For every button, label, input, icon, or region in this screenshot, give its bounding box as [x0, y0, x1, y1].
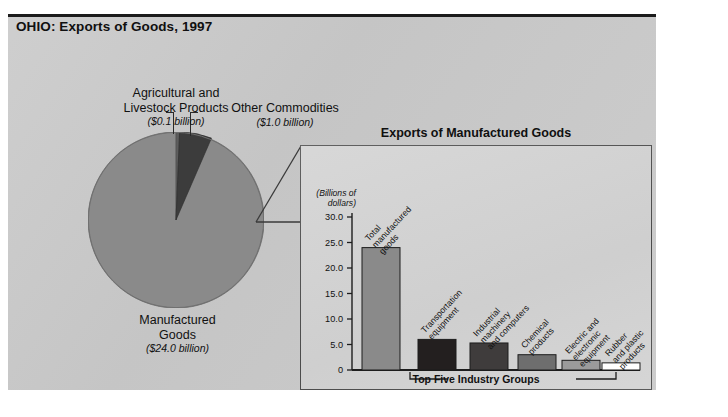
- bar-chart-svg: 05.010.015.020.025.030.0Totalmanufacture…: [300, 145, 652, 390]
- y-axis-tick-label: 10.0: [325, 314, 343, 324]
- bar-label-4: Chemicalproducts: [519, 317, 558, 357]
- figure-root: OHIO: Exports of Goods, 1997 Agricultura…: [0, 0, 728, 417]
- pie-label-manufactured-line1: Manufactured: [95, 313, 260, 328]
- y-axis-tick-label: 25.0: [325, 238, 343, 248]
- bar-2: [418, 339, 456, 370]
- callout-line-upper: [256, 146, 301, 222]
- pie-label-manufactured: Manufactured Goods ($24.0 billion): [95, 313, 260, 355]
- pie-label-manufactured-value: ($24.0 billion): [95, 342, 260, 354]
- pie-label-manufactured-line2: Goods: [95, 328, 260, 343]
- bar-1: [362, 248, 400, 370]
- y-axis-tick-label: 15.0: [325, 289, 343, 299]
- pie-chart-svg: [88, 132, 264, 308]
- bar-label-2: Transportationequipment: [419, 287, 471, 341]
- y-axis-tick-label: 30.0: [325, 212, 343, 222]
- inset-chart-title: Exports of Manufactured Goods: [300, 126, 652, 140]
- pie-label-agricultural-line1: Agricultural and: [86, 86, 266, 101]
- pie-label-other-line1: Other Commodities: [205, 101, 365, 116]
- pie-chart: [88, 132, 264, 308]
- title-rule: [8, 14, 656, 17]
- pie-label-other-commodities: Other Commodities ($1.0 billion): [205, 101, 365, 128]
- y-axis-tick-label: 5.0: [330, 340, 343, 350]
- bracket-label: Top Five Industry Groups: [300, 373, 652, 385]
- y-axis-tick-label: 20.0: [325, 263, 343, 273]
- bar-4: [518, 355, 556, 370]
- page-title: OHIO: Exports of Goods, 1997: [16, 19, 212, 34]
